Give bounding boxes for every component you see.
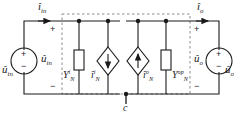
admittance-left — [74, 19, 84, 94]
circuit-diagram: îin îo ûin ûin ûo ûo YiN YopN îiN îoN c … — [0, 0, 244, 114]
y-right-sub: N — [184, 75, 188, 82]
current-out-hat: î — [197, 0, 200, 12]
dependent-source-left — [97, 19, 119, 94]
current-out-sub: o — [200, 7, 203, 14]
label-source-left-inner: ûin — [41, 53, 52, 64]
u-in-outer-sub: in — [8, 70, 13, 77]
sign-source-right-minus: − — [216, 62, 221, 71]
label-source-right-outer: ûo — [194, 53, 203, 64]
u-o-outer-sub: o — [200, 59, 203, 66]
common-node-text: c — [123, 102, 127, 113]
dep-right-sub: N — [149, 75, 153, 82]
schematic-svg — [0, 0, 244, 114]
sign-port-left-plus: + — [50, 25, 55, 34]
u-o-outer-hat: û — [194, 52, 200, 64]
label-dep-source-right: îoN — [143, 70, 153, 80]
y-left-sup: i — [69, 68, 71, 75]
dep-right-hat: î — [143, 69, 146, 80]
u-o-hat: û — [225, 63, 231, 75]
y-right-sup: op — [178, 68, 184, 75]
dep-left-sup: i — [94, 68, 96, 75]
u-in-outer-hat: û — [2, 63, 8, 75]
sign-source-left-plus: + — [21, 50, 26, 59]
y-left-sub: N — [70, 75, 74, 82]
sign-source-left-minus: − — [21, 62, 26, 71]
dependent-source-right — [127, 19, 149, 94]
label-current-in: îin — [38, 1, 46, 12]
dep-right-sup: o — [146, 68, 149, 75]
label-source-right-inner: ûo — [225, 64, 234, 75]
label-source-left-outer: ûin — [2, 64, 13, 75]
dep-left-sub: N — [96, 75, 100, 82]
label-dep-source-left: îiN — [91, 70, 100, 80]
sign-port-right-minus: − — [194, 82, 199, 91]
u-in-hat: û — [41, 52, 47, 64]
sign-source-right-plus: + — [216, 50, 221, 59]
u-o-sub: o — [231, 70, 234, 77]
current-in-sub: in — [41, 7, 46, 14]
admittance-right — [161, 19, 171, 94]
label-admittance-left: YiN — [63, 70, 74, 80]
label-common-node: c — [123, 103, 127, 113]
sign-port-left-minus: − — [50, 82, 55, 91]
current-in-hat: î — [38, 0, 41, 12]
dep-left-hat: î — [91, 69, 94, 80]
label-admittance-right: YopN — [172, 70, 188, 80]
u-in-sub: in — [47, 59, 52, 66]
label-current-out: îo — [197, 1, 203, 12]
sign-port-right-plus: + — [194, 25, 199, 34]
